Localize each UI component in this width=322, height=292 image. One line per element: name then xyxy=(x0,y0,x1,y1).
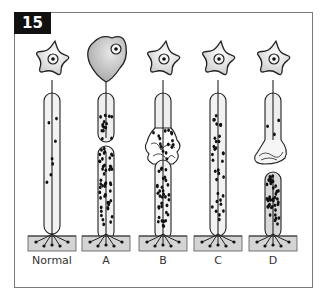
col-d-nucleolus xyxy=(272,57,276,61)
col-a-terminal-bouton xyxy=(104,243,107,246)
col-b-particle xyxy=(160,166,163,170)
col-d-particle xyxy=(274,208,277,212)
col-c-particle xyxy=(218,140,221,144)
col-b-particle xyxy=(162,220,165,224)
col-a-particle xyxy=(110,115,113,119)
normal-particle xyxy=(51,162,54,166)
col-a-particle xyxy=(109,220,112,224)
normal-particle xyxy=(50,173,53,177)
col-d-particle xyxy=(272,186,275,190)
col-b-particle xyxy=(165,211,168,215)
col-b-particle xyxy=(159,194,162,198)
col-c-particle xyxy=(222,209,225,213)
col-d-particle xyxy=(266,183,269,187)
col-a-particle xyxy=(105,122,108,126)
normal-particle xyxy=(51,157,54,161)
col-d-particle xyxy=(266,124,269,128)
col-d-retraction-bulb xyxy=(255,140,287,164)
col-b-particle xyxy=(167,129,170,133)
col-c-terminal-bouton xyxy=(232,240,235,243)
col-d-terminal-bouton xyxy=(263,244,266,247)
col-b-particle xyxy=(165,168,168,172)
col-a-particle xyxy=(99,115,102,119)
col-d-particle xyxy=(274,219,277,223)
col-b-particle xyxy=(160,201,163,205)
col-c-particle xyxy=(222,194,225,198)
col-a-particle xyxy=(98,153,101,157)
col-c-particle xyxy=(219,198,222,202)
col-a-particle xyxy=(111,153,114,157)
col-c-particle xyxy=(218,213,221,217)
col-b-terminal-bouton xyxy=(145,240,148,243)
col-a-particle xyxy=(100,179,103,183)
col-c-particle xyxy=(217,192,220,196)
col-a-particle xyxy=(111,215,114,219)
col-d-particle xyxy=(277,119,280,123)
col-b-terminal-bouton xyxy=(161,243,164,246)
col-b-particle xyxy=(158,170,161,174)
col-c-particle xyxy=(220,202,223,206)
col-c-particle xyxy=(215,146,218,150)
neuron-diagram xyxy=(0,0,322,292)
col-a-terminal-bouton xyxy=(120,240,123,243)
col-d-particle xyxy=(273,133,276,137)
col-a-particle xyxy=(109,199,112,203)
col-b-particle xyxy=(162,189,165,193)
col-a-particle xyxy=(102,223,105,227)
column-label-c: C xyxy=(193,254,243,267)
col-a-terminal-bouton xyxy=(88,240,91,243)
col-a-particle xyxy=(98,191,101,195)
col-b-particle xyxy=(162,224,165,228)
col-b-particle xyxy=(162,149,165,153)
col-d-particle xyxy=(274,213,277,217)
col-a-particle xyxy=(109,165,112,169)
col-b-particle xyxy=(162,193,165,197)
col-a-particle xyxy=(109,183,112,187)
col-d-terminal-bouton xyxy=(287,240,290,243)
col-d-particle xyxy=(275,192,278,196)
col-d-particle xyxy=(268,195,271,199)
col-b-particle xyxy=(167,143,170,147)
column-label-normal: Normal xyxy=(27,254,77,267)
col-a-particle xyxy=(111,168,114,172)
col-a-particle xyxy=(102,218,105,222)
col-a-particle xyxy=(101,157,104,161)
col-b-terminal-bouton xyxy=(153,244,156,247)
col-b-terminal-bouton xyxy=(169,244,172,247)
col-d-terminal-bouton xyxy=(279,244,282,247)
normal-particle xyxy=(48,121,51,125)
col-b-particle xyxy=(164,129,167,133)
col-a-particle xyxy=(100,148,103,152)
normal-terminal-bouton xyxy=(66,240,69,243)
col-a-particle xyxy=(108,115,111,119)
normal-terminal-bouton xyxy=(58,244,61,247)
col-a-particle xyxy=(99,186,102,190)
normal-terminal-bouton xyxy=(42,244,45,247)
col-d-particle xyxy=(277,201,280,205)
col-a-particle xyxy=(102,129,105,133)
col-a-cell-body-degenerated xyxy=(88,37,127,82)
col-b-particle xyxy=(168,198,171,202)
col-d-particle xyxy=(266,197,269,201)
col-b-particle xyxy=(156,185,159,189)
col-b-particle xyxy=(158,216,161,220)
col-a-particle xyxy=(98,159,101,163)
col-a-particle xyxy=(103,151,106,155)
col-a-particle xyxy=(103,126,106,130)
col-c-particle xyxy=(215,114,218,118)
col-b-terminal-bouton xyxy=(177,240,180,243)
col-a-particle xyxy=(104,169,107,173)
col-b-particle xyxy=(158,206,161,210)
col-c-particle xyxy=(217,172,220,176)
col-d-particle xyxy=(269,213,272,217)
col-b-particle xyxy=(171,139,174,143)
col-a-particle xyxy=(102,165,105,169)
col-c-particle xyxy=(221,160,224,164)
col-a-particle xyxy=(101,137,104,141)
column-label-a: A xyxy=(81,254,131,267)
col-c-particle xyxy=(222,151,225,155)
col-c-particle xyxy=(211,153,214,157)
col-c-terminal-bouton xyxy=(224,244,227,247)
col-a-terminal-bouton xyxy=(112,244,115,247)
col-a-particle xyxy=(103,120,106,124)
